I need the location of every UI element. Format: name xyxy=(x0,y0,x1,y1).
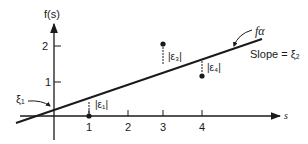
data-point-3 xyxy=(160,41,165,46)
x-axis-label: s xyxy=(284,110,288,121)
error-4: |ε₄| xyxy=(199,61,220,79)
linear-fit-diagram: 2 1 f(s) 1 2 3 4 s fα Slope = ξ₂ ξ₁ |ε₁| xyxy=(0,0,308,144)
error-1-label: |ε₁| xyxy=(95,99,108,110)
error-3-label: |ε₃| xyxy=(168,51,182,62)
x-tick-label-2: 2 xyxy=(125,121,131,133)
y-axis: 2 1 f(s) xyxy=(42,8,61,140)
x-tick-label-1: 1 xyxy=(86,121,92,133)
y-tick-label-1: 1 xyxy=(45,76,51,88)
line-label-text: fα xyxy=(255,24,265,38)
data-point-1 xyxy=(86,113,91,118)
error-4-label: |ε₄| xyxy=(207,62,221,73)
y-axis-label: f(s) xyxy=(44,8,60,20)
x-axis: 1 2 3 4 s xyxy=(20,110,288,133)
y-tick-label-2: 2 xyxy=(42,40,48,52)
x-tick-label-3: 3 xyxy=(160,121,166,133)
error-3: |ε₃| xyxy=(160,41,181,64)
data-point-4 xyxy=(199,73,204,78)
intercept-label: ξ₁ xyxy=(16,93,50,106)
fit-line xyxy=(16,39,262,123)
slope-label: Slope = ξ₂ xyxy=(250,48,300,60)
x-tick-label-4: 4 xyxy=(199,121,205,133)
intercept-label-text: ξ₁ xyxy=(16,93,25,105)
